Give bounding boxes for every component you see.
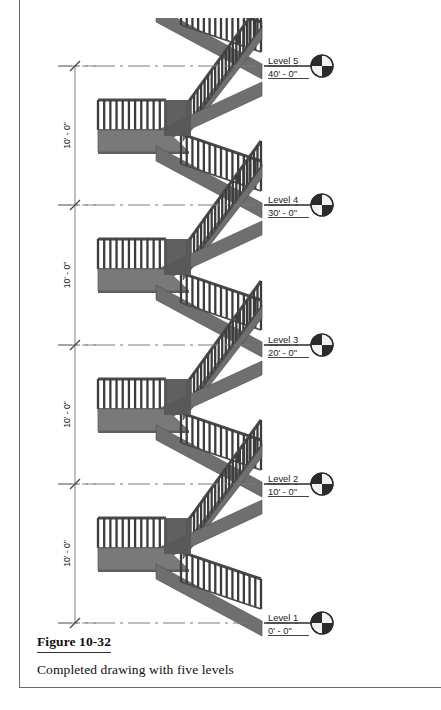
level-elevation-label: 10' - 0" bbox=[268, 486, 297, 497]
landing-slab-edge bbox=[98, 431, 189, 433]
dimension-value-label: 10' - 0" bbox=[62, 401, 72, 428]
stair-geometry bbox=[98, 0, 262, 636]
figure-description: Completed drawing with five levels bbox=[37, 662, 397, 678]
figure-number: Figure 10-32 bbox=[37, 634, 111, 653]
level-head-circle-icon bbox=[311, 473, 333, 495]
landing-inner-stringer bbox=[164, 239, 191, 275]
dimension-value-label: 10' - 0" bbox=[62, 262, 72, 289]
upper-flight-stringer bbox=[183, 0, 262, 2]
level-name-label: Level 4 bbox=[268, 194, 298, 205]
landing-inner-stringer bbox=[164, 379, 191, 415]
level-elevation-label: 30' - 0" bbox=[268, 207, 297, 218]
landing-slab bbox=[98, 0, 189, 13]
level-marker: Level 540' - 0" bbox=[264, 55, 333, 79]
level-name-label: Level 3 bbox=[268, 334, 298, 345]
landing-slab-edge bbox=[98, 152, 189, 154]
stair-elevation-drawing: 10' - 0"10' - 0"10' - 0"10' - 0" Level 5… bbox=[0, 0, 441, 660]
caption-inner: Figure 10-32 Completed drawing with five… bbox=[37, 632, 397, 678]
cross-stringer-upper bbox=[154, 0, 262, 7]
level-marker: Level 320' - 0" bbox=[264, 334, 333, 358]
drawing-canvas: 10' - 0"10' - 0"10' - 0"10' - 0" Level 5… bbox=[0, 0, 441, 660]
level-head-circle-icon bbox=[311, 55, 333, 77]
level-elevation-label: 20' - 0" bbox=[268, 347, 297, 358]
landing-slab-edge bbox=[98, 291, 189, 293]
level-head-circle-icon bbox=[311, 334, 333, 356]
level-head-circle-icon bbox=[311, 194, 333, 216]
level-elevation-label: 40' - 0" bbox=[268, 68, 297, 79]
level-name-label: Level 2 bbox=[268, 473, 298, 484]
landing-slab-edge bbox=[98, 13, 189, 15]
dimension-string: 10' - 0"10' - 0"10' - 0"10' - 0" bbox=[58, 61, 96, 628]
level-head-circle-icon bbox=[311, 612, 333, 634]
level-marker: Level 430' - 0" bbox=[264, 194, 333, 218]
page-border-bottom bbox=[19, 687, 441, 688]
level-name-label: Level 1 bbox=[268, 612, 298, 623]
level-name-label: Level 5 bbox=[268, 55, 298, 66]
figure-page: 10' - 0"10' - 0"10' - 0"10' - 0" Level 5… bbox=[0, 0, 441, 710]
landing-inner-stringer bbox=[164, 518, 191, 554]
landing-slab-edge bbox=[98, 570, 189, 572]
landing-inner-stringer bbox=[164, 100, 191, 136]
dimension-value-label: 10' - 0" bbox=[62, 540, 72, 567]
dimension-value-label: 10' - 0" bbox=[62, 122, 72, 149]
level-markers: Level 540' - 0"Level 430' - 0"Level 320'… bbox=[264, 55, 333, 636]
level-marker: Level 210' - 0" bbox=[264, 473, 333, 497]
